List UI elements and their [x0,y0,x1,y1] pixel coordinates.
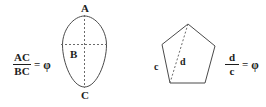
right-equals-sign: = [242,59,248,70]
egg-label-a: A [81,3,89,14]
pentagon-label-d: d [180,57,186,67]
right-fraction: d c [225,52,239,77]
figure-canvas: AC BC = φ A B C c d d c = φ [0,0,266,107]
egg-label-b: B [70,49,77,60]
right-phi-symbol: φ [251,59,259,71]
right-equation: d c = φ [225,52,259,77]
egg-label-c: C [81,90,89,101]
right-fraction-denominator: c [229,65,236,77]
pentagon-diagonal [170,24,188,83]
pentagon-label-c: c [154,62,158,72]
pentagon-outline [162,24,215,83]
right-fraction-numerator: d [228,52,236,64]
